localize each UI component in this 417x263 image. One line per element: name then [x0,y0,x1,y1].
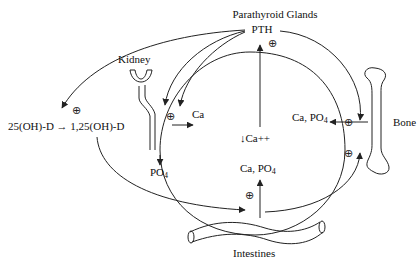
stimulation-icon: ⊕ [72,104,81,117]
pth-label: PTH [252,23,273,35]
stimulation-icon: ⊕ [344,147,353,160]
intestines-icon [190,222,323,244]
bone-ca-po4-label: Ca, PO4 [292,111,328,125]
bone-label: Bone [393,116,416,128]
stimulation-icon: ⊕ [166,110,175,123]
intestine-end [319,221,325,233]
bone-icon [365,68,389,174]
kidney-label: Kidney [118,53,151,65]
pth-to-vitamin-d-arrow [62,30,245,108]
calcium-homeostasis-diagram: Parathyroid Glands PTH ⊕ ↓Ca++ ⊕ ⊕ ⊕ Kid… [0,0,417,263]
stimulation-icon: ⊕ [245,189,254,202]
stimulation-icon: ⊕ [268,37,277,50]
kidney-icon [130,70,155,150]
low-calcium-label: ↓Ca++ [240,132,270,144]
intestine-end [188,231,194,243]
kidney-ca-label: Ca [192,108,204,120]
vitamin-d-to-intestines-arrow [97,137,245,210]
parathyroid-glands-label: Parathyroid Glands [232,8,317,20]
intestine-ca-po4-label: Ca, PO4 [240,162,276,176]
vitamin-d-to-bone-arrow [265,153,360,212]
pth-to-bone-arrow [280,31,360,120]
vitamin-d-conversion-label: 25(OH)-D → 1,25(OH)-D [8,120,124,133]
kidney-po4-label: PO4 [150,166,168,180]
intestines-label: Intestines [233,247,275,259]
